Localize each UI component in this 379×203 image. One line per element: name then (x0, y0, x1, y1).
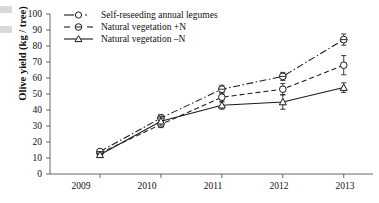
legend-key-natveg-minus-n (63, 33, 97, 45)
olive-yield-line-chart: Olive yield (kg / tree) 100 90 80 70 60 … (0, 0, 379, 203)
legend-item-natveg-plus-n: Natural vegetation +N (63, 21, 218, 33)
chart-legend: Self-reseeding annual legumes Natural ve… (63, 9, 218, 46)
legend-item-natveg-minus-n: Natural vegetation –N (63, 33, 218, 45)
data-series-layer (96, 34, 347, 158)
legend-label-natveg-minus-n: Natural vegetation –N (101, 33, 185, 45)
y-axis-ticks (46, 14, 50, 174)
legend-label-natveg-plus-n: Natural vegetation +N (101, 21, 186, 33)
legend-item-legumes: Self-reseeding annual legumes (63, 9, 218, 21)
legend-label-legumes: Self-reseeding annual legumes (101, 9, 218, 21)
legend-key-natveg-plus-n (63, 21, 97, 33)
legend-key-legumes (63, 9, 97, 21)
x-axis-ticks (100, 174, 344, 178)
